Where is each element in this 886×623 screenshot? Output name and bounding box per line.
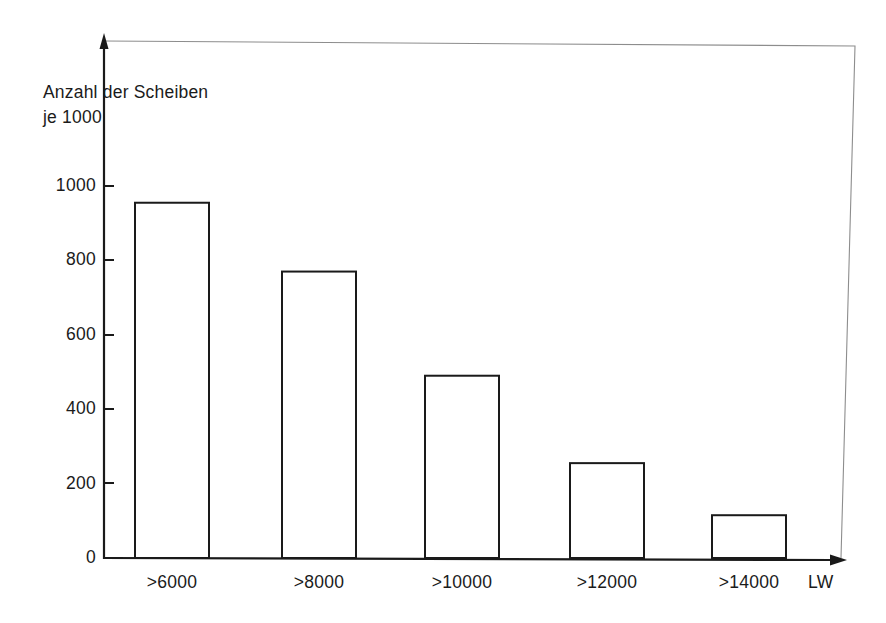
y-axis-caption: Anzahl der Scheiben je 1000 <box>43 80 208 131</box>
x-axis-tick-label: >12000 <box>547 572 667 593</box>
bar <box>712 515 786 558</box>
y-axis-caption-line-2: je 1000 <box>43 105 208 130</box>
x-axis-tick-label: >8000 <box>259 572 379 593</box>
y-axis-tick-label: 1000 <box>56 175 96 196</box>
y-axis-tick-label: 200 <box>66 473 96 494</box>
x-axis-arrow-head-icon <box>830 555 847 566</box>
y-axis-tick-label: 800 <box>66 249 96 270</box>
bar <box>425 376 499 558</box>
bar <box>570 463 644 558</box>
bar <box>135 203 209 558</box>
y-axis-ticks <box>104 186 114 558</box>
x-axis-tick-label: >6000 <box>112 572 232 593</box>
x-axis-tick-label: >10000 <box>402 572 522 593</box>
figure-container: Anzahl der Scheiben je 1000 020040060080… <box>0 0 886 623</box>
y-axis-tick-label: 600 <box>66 324 96 345</box>
x-axis-tick-label: >14000 <box>689 572 809 593</box>
x-axis-unit-label: LW <box>808 572 834 593</box>
y-axis-caption-line-1: Anzahl der Scheiben <box>43 80 208 105</box>
y-axis-tick-label: 0 <box>86 547 96 568</box>
bars-group <box>135 203 786 558</box>
bar <box>282 272 356 558</box>
y-axis-tick-label: 400 <box>66 398 96 419</box>
